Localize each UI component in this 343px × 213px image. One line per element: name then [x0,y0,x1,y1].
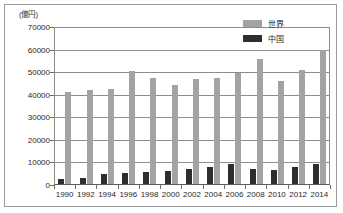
bar-china-2004[interactable] [207,167,213,185]
legend-item-china[interactable]: 中国 [243,32,315,44]
bar-world-2000[interactable] [172,85,178,185]
y-tick-mark-70000 [50,27,54,28]
y-tick-label-0: 0 [6,181,50,190]
x-tick-mark-2012 [288,185,289,189]
chart-legend: 世界 中国 [243,17,315,47]
x-tick-mark-1998 [139,185,140,189]
bar-group-2004 [203,27,224,185]
plot-area [54,27,330,185]
x-tick-mark-2006 [224,185,225,189]
bar-china-2014[interactable] [313,164,319,185]
y-tick-label-70000: 70000 [6,23,50,32]
y-tick-label-50000: 50000 [6,68,50,77]
bar-group-2000 [160,27,181,185]
bar-group-1990 [54,27,75,185]
y-tick-label-40000: 40000 [6,90,50,99]
legend-label-world: 世界 [268,18,284,29]
x-tick-mark-2010 [266,185,267,189]
x-tick-mark-2000 [160,185,161,189]
y-tick-label-60000: 60000 [6,45,50,54]
y-tick-mark-50000 [50,72,54,73]
bar-group-2002 [181,27,202,185]
y-tick-mark-60000 [50,50,54,51]
bar-china-2002[interactable] [186,169,192,185]
x-tick-mark-2014 [309,185,310,189]
bar-group-2008 [245,27,266,185]
legend-swatch-world-icon [243,20,262,27]
bar-group-2014 [309,27,330,185]
bar-china-2012[interactable] [292,167,298,185]
x-tick-mark-2004 [203,185,204,189]
x-tick-mark-1994 [96,185,97,189]
bar-china-2000[interactable] [165,171,171,185]
bar-china-2006[interactable] [228,164,234,185]
bar-group-2006 [224,27,245,185]
x-tick-label-2014: 2014 [304,190,334,199]
bar-world-2006[interactable] [235,73,241,185]
bar-group-1994 [96,27,117,185]
y-tick-label-20000: 20000 [6,135,50,144]
x-tick-mark-2002 [181,185,182,189]
bar-world-1990[interactable] [65,92,71,185]
x-tick-mark-end [330,185,331,189]
bar-group-1996 [118,27,139,185]
y-tick-mark-30000 [50,117,54,118]
x-tick-mark-1990 [54,185,55,189]
x-axis-line [54,184,330,185]
chart-figure: (億円) 01000020000300004000050000600007000… [0,0,343,213]
bar-world-2014[interactable] [320,50,326,185]
bar-group-2012 [288,27,309,185]
y-axis-unit-label: (億円) [19,8,38,19]
x-tick-mark-2008 [245,185,246,189]
bar-world-2010[interactable] [278,81,284,186]
bar-world-2012[interactable] [299,70,305,185]
bar-group-1998 [139,27,160,185]
bar-world-1996[interactable] [129,71,135,185]
legend-label-china: 中国 [268,33,284,44]
bar-china-2010[interactable] [271,170,277,185]
legend-item-world[interactable]: 世界 [243,17,315,29]
bar-china-2008[interactable] [250,169,256,185]
y-tick-label-10000: 10000 [6,158,50,167]
bar-world-2002[interactable] [193,79,199,185]
legend-swatch-china-icon [243,35,262,42]
y-tick-mark-40000 [50,95,54,96]
bar-group-1992 [75,27,96,185]
y-tick-mark-10000 [50,162,54,163]
bar-world-1998[interactable] [150,78,156,185]
bar-world-2004[interactable] [214,78,220,185]
y-tick-label-30000: 30000 [6,113,50,122]
x-tick-mark-1996 [118,185,119,189]
bar-world-1992[interactable] [87,90,93,185]
bar-group-2010 [266,27,287,185]
x-tick-mark-1992 [75,185,76,189]
bar-world-2008[interactable] [257,59,263,185]
bar-world-1994[interactable] [108,89,114,185]
y-tick-mark-20000 [50,140,54,141]
